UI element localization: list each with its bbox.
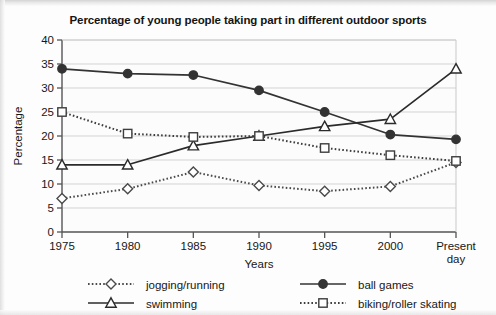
series-marker [58, 65, 66, 73]
legend-item[interactable]: biking/roller skating [300, 298, 456, 310]
series-marker [386, 151, 394, 159]
legend-item[interactable]: jogging/running [88, 279, 225, 291]
y-tick-label: 15 [41, 154, 54, 166]
series-marker [189, 133, 197, 141]
y-tick-label: 0 [48, 226, 54, 238]
series-marker [320, 108, 328, 116]
x-tick-label: 1975 [49, 240, 75, 252]
legend-marker [106, 279, 116, 289]
series-marker [189, 71, 197, 79]
y-tick-label: 35 [41, 58, 54, 70]
y-axis-title: Percentage [12, 107, 24, 166]
y-tick-label: 10 [41, 178, 54, 190]
x-tick-label: 1995 [312, 240, 338, 252]
chart-legend: jogging/runningball gamesswimmingbiking/… [88, 279, 456, 310]
legend-label: swimming [146, 298, 197, 310]
y-tick-label: 40 [41, 34, 54, 46]
series-marker [255, 86, 263, 94]
series-marker [123, 69, 131, 77]
x-axis-title: Years [245, 258, 274, 270]
legend-item[interactable]: swimming [88, 298, 197, 310]
series-marker [320, 144, 328, 152]
x-tick-label: Presentday [436, 240, 476, 265]
chart-figure: Percentage of young people taking part i… [0, 0, 496, 315]
y-axis-ticks: 0510152025303540 [41, 34, 62, 238]
series-marker [452, 157, 460, 165]
series-marker [123, 129, 131, 137]
series-marker [386, 130, 394, 138]
legend-marker [319, 299, 327, 307]
x-tick-label: 1985 [181, 240, 207, 252]
legend-label: biking/roller skating [358, 298, 456, 310]
y-tick-label: 20 [41, 130, 54, 142]
legend-label: jogging/running [145, 279, 225, 291]
y-tick-label: 30 [41, 82, 54, 94]
line-chart-plot: 0510152025303540 19751980198519901995200… [0, 0, 496, 315]
x-tick-label: 1990 [246, 240, 272, 252]
y-tick-label: 25 [41, 106, 54, 118]
x-tick-label: 2000 [378, 240, 404, 252]
legend-label: ball games [358, 279, 414, 291]
series-marker [452, 135, 460, 143]
x-tick-label: 1980 [115, 240, 141, 252]
legend-marker [319, 280, 327, 288]
y-tick-label: 5 [48, 202, 54, 214]
series-marker [58, 108, 66, 116]
series-marker [255, 132, 263, 140]
legend-item[interactable]: ball games [300, 279, 414, 291]
